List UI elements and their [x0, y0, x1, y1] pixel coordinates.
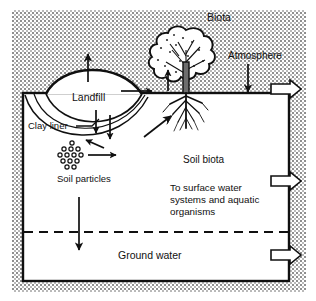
label-soil-particles: Soil particles	[57, 173, 111, 184]
label-atmosphere: Atmosphere	[228, 50, 282, 61]
label-soil-biota: Soil biota	[183, 154, 225, 165]
tree-trunk	[183, 62, 189, 93]
label-landfill: Landfill	[72, 91, 105, 103]
label-surface-water-line2: systems and aquatic	[170, 194, 259, 205]
label-biota: Biota	[207, 11, 231, 23]
label-surface-water-line1: To surface water	[170, 182, 243, 193]
label-ground-water: Ground water	[118, 249, 182, 261]
label-clay-liner: Clay liner	[28, 120, 68, 131]
label-surface-water-line3: organisms	[170, 206, 215, 217]
landfill-pathways-diagram: Biota Atmosphere Landfill Clay liner Soi…	[0, 0, 316, 301]
